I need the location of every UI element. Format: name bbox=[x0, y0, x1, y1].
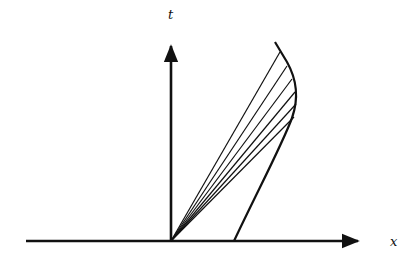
x-axis-label: x bbox=[390, 234, 398, 249]
fan-line bbox=[171, 52, 280, 241]
fan-line bbox=[171, 117, 294, 241]
shock-curve bbox=[234, 42, 296, 241]
characteristics-diagram: t x bbox=[0, 0, 418, 261]
t-axis-label: t bbox=[168, 7, 174, 22]
fan-line bbox=[171, 104, 296, 241]
fan-lines bbox=[171, 52, 296, 241]
fan-line bbox=[171, 92, 295, 241]
fan-line bbox=[171, 66, 287, 241]
